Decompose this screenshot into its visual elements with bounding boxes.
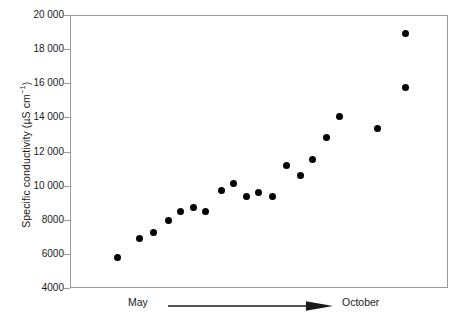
data-point (283, 162, 290, 169)
x-axis-end-label: October (342, 295, 379, 309)
data-point (202, 208, 209, 215)
y-axis-tick-label: 8000 (18, 215, 64, 225)
data-point (309, 156, 316, 163)
data-point (297, 172, 304, 179)
data-point (190, 204, 197, 211)
y-axis-tick-label: 12 000 (18, 147, 64, 157)
x-axis-annotation: May October (70, 295, 448, 317)
data-point (402, 84, 409, 91)
rightwards-arrow-icon (168, 301, 333, 311)
data-point (136, 235, 143, 242)
y-axis-tick-label: 6000 (18, 249, 64, 259)
y-axis-tick-mark (64, 288, 70, 289)
data-point (230, 180, 237, 187)
data-point (269, 193, 276, 200)
y-axis-tick-label: 10 000 (18, 181, 64, 191)
data-point (165, 217, 172, 224)
y-axis-tick-label: 16 000 (18, 78, 64, 88)
y-axis-tick-label: 14 000 (18, 112, 64, 122)
x-axis-start-label: May (128, 295, 148, 309)
data-point (243, 193, 250, 200)
data-point (218, 187, 225, 194)
y-axis-tick-label: 18 000 (18, 44, 64, 54)
data-point (177, 208, 184, 215)
data-point (114, 254, 121, 261)
data-point (374, 125, 381, 132)
data-point (402, 30, 409, 37)
y-axis-tick-label: 4000 (18, 283, 64, 293)
y-axis-tick-labels: 40006000800010 00012 00014 00016 00018 0… (14, 0, 64, 326)
plot-area (70, 15, 448, 288)
scatter-chart-figure: Specific conductivity (µS cm−1) 40006000… (0, 0, 459, 326)
data-point (323, 134, 330, 141)
data-point (255, 189, 262, 196)
y-axis-tick-label: 20 000 (18, 10, 64, 20)
data-point (150, 229, 157, 236)
data-point (336, 113, 343, 120)
